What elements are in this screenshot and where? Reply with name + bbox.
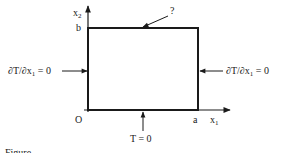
x2-axis-label: x2 <box>73 7 82 20</box>
bottom-bc-label: T = 0 <box>130 133 152 144</box>
b-label: b <box>76 22 81 33</box>
a-label: a <box>193 114 198 125</box>
figure-caption: Figure ... <box>5 147 41 153</box>
origin-label: O <box>75 114 82 125</box>
top-bc-arrow <box>143 16 168 27</box>
left-bc-label: ∂T/∂x1 = 0 <box>8 65 51 78</box>
domain-diagram: x2 b O a x1 ∂T/∂x1 = 0 ∂T/∂x1 = 0 T = 0 … <box>0 0 285 153</box>
x1-axis-label: x1 <box>210 114 219 127</box>
right-bc-label: ∂T/∂x1 = 0 <box>226 65 269 78</box>
domain-rectangle <box>88 28 198 110</box>
top-bc-label: ? <box>170 5 175 16</box>
